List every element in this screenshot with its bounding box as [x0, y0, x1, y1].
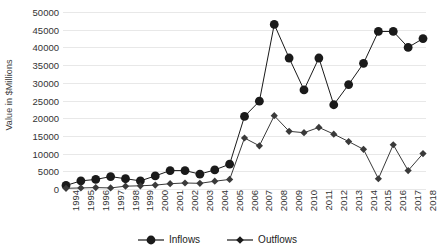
legend-item-outflows[interactable]: Outflows — [226, 234, 297, 246]
data-point-marker — [255, 97, 264, 106]
data-point-marker — [360, 146, 367, 153]
y-axis-title-text: Value in $Millions — [4, 59, 14, 130]
x-axis-tick-label: 2005 — [234, 190, 245, 211]
chart-legend: InflowsOutflows — [0, 230, 434, 249]
data-point-marker — [167, 180, 174, 187]
x-axis-tick-label: 1995 — [85, 190, 96, 211]
data-point-marker — [300, 129, 307, 136]
data-point-marker — [300, 85, 309, 94]
diamond-marker-icon — [226, 234, 254, 246]
x-axis-tick-label: 2015 — [382, 190, 393, 211]
x-axis-tick-label: 2007 — [263, 190, 274, 211]
data-point-marker — [152, 182, 159, 189]
data-point-marker — [226, 176, 233, 183]
data-point-marker — [76, 176, 85, 185]
data-point-marker — [121, 174, 130, 183]
legend-label: Inflows — [169, 234, 200, 245]
x-axis-tick-label: 2016 — [397, 190, 408, 211]
data-point-marker — [390, 141, 397, 148]
x-axis-tick-label: 2001 — [174, 190, 185, 211]
x-axis-tick-label: 1996 — [100, 190, 111, 211]
x-axis-tick-label: 2006 — [249, 190, 260, 211]
x-axis-tick-label: 1994 — [70, 190, 81, 211]
data-point-marker — [330, 131, 337, 138]
legend-item-inflows[interactable]: Inflows — [137, 234, 200, 246]
x-axis-tick-label: 2012 — [338, 190, 349, 211]
y-axis-tick-label: 40000 — [33, 42, 59, 53]
x-axis-tick-label: 1998 — [130, 190, 141, 211]
data-point-marker — [106, 172, 115, 181]
y-axis-tick-label: 35000 — [33, 60, 59, 71]
data-point-marker — [419, 34, 428, 43]
data-point-marker — [404, 43, 413, 52]
x-axis-tick-label: 2017 — [412, 190, 423, 211]
data-point-marker — [344, 80, 353, 89]
x-axis-tick-label: 2018 — [427, 190, 438, 211]
y-axis-tick-label: 30000 — [33, 77, 59, 88]
x-axis-tick-labels: 1994199519961997199819992000200120022003… — [63, 190, 426, 232]
data-point-marker — [240, 112, 249, 121]
x-axis-tick-label: 2004 — [219, 190, 230, 211]
data-point-marker — [314, 54, 323, 63]
data-point-marker — [196, 180, 203, 187]
data-point-marker — [270, 20, 279, 29]
data-point-marker — [210, 165, 219, 174]
plot-area — [63, 12, 426, 189]
x-axis-tick-label: 2009 — [293, 190, 304, 211]
data-point-marker — [315, 124, 322, 131]
x-axis-tick-label: 1999 — [144, 190, 155, 211]
y-axis-tick-label: 50000 — [33, 7, 59, 18]
data-point-marker — [151, 172, 160, 181]
data-point-marker — [122, 183, 129, 190]
y-axis-tick-label: 15000 — [33, 130, 59, 141]
y-axis-tick-label: 20000 — [33, 113, 59, 124]
data-point-marker — [166, 166, 175, 175]
data-point-marker — [241, 134, 248, 141]
legend-label: Outflows — [258, 234, 297, 245]
x-axis-tick-label: 2008 — [278, 190, 289, 211]
data-point-marker — [359, 59, 368, 68]
data-point-marker — [181, 179, 188, 186]
data-point-marker — [374, 27, 383, 36]
x-axis-tick-label: 2011 — [323, 190, 334, 210]
y-axis-tick-label: 25000 — [33, 95, 59, 106]
data-point-marker — [389, 27, 398, 36]
data-point-marker — [345, 138, 352, 145]
circle-marker-icon — [137, 234, 165, 246]
x-axis-tick-label: 2002 — [189, 190, 200, 211]
y-axis-tick-label: 5000 — [38, 166, 59, 177]
data-point-marker — [211, 178, 218, 185]
data-point-marker — [91, 175, 100, 184]
data-point-marker — [256, 142, 263, 149]
y-axis-tick-label: 0 — [54, 184, 59, 195]
x-axis-tick-label: 2003 — [204, 190, 215, 211]
data-point-marker — [225, 160, 234, 169]
x-axis-tick-label: 2000 — [159, 190, 170, 211]
x-axis-tick-label: 2013 — [353, 190, 364, 211]
data-point-marker — [195, 170, 204, 179]
y-axis-tick-label: 10000 — [33, 148, 59, 159]
y-axis-tick-labels: 0500010000150002000025000300003500040000… — [14, 0, 62, 200]
x-axis-tick-label: 1997 — [115, 190, 126, 211]
x-axis-tick-label: 2014 — [368, 190, 379, 211]
data-point-marker — [181, 166, 190, 175]
data-point-marker — [285, 54, 294, 63]
series-canvas — [63, 12, 426, 189]
data-point-marker — [375, 175, 382, 182]
x-axis-tick-label: 2010 — [308, 190, 319, 211]
y-axis-tick-label: 45000 — [33, 24, 59, 35]
data-point-marker — [329, 100, 338, 109]
